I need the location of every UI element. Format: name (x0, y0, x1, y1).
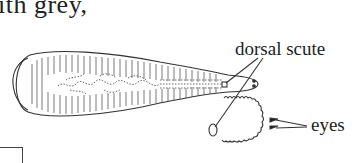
label-dorsal-scute: dorsal scute (235, 38, 325, 60)
gut-pattern (58, 74, 222, 94)
body-hatching (32, 55, 216, 114)
label-eyes: eyes (311, 114, 345, 136)
box-corner-fragment (0, 147, 23, 163)
scute-leaders (209, 58, 263, 136)
head-enlargement (222, 97, 307, 143)
leech-illustration (0, 0, 361, 163)
